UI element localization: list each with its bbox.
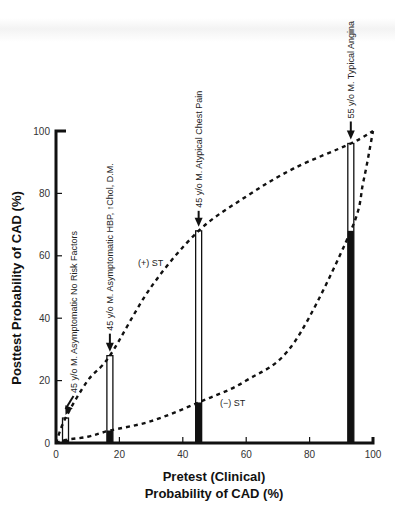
x-tick-label: 0 xyxy=(53,449,59,460)
bar-group xyxy=(348,143,354,443)
annotation-label: 45 y/o M. Asymptomatic HBP, ↑Chol, D.M. xyxy=(105,163,115,330)
negative-st-bar xyxy=(196,402,202,443)
negative-st-label: (−) ST xyxy=(220,398,246,408)
annotation-label: 55 y/o M. Typical Angina xyxy=(346,21,356,118)
y-tick-label: 40 xyxy=(39,313,51,324)
bar-group xyxy=(196,231,202,443)
y-axis-title: Posttest Probability of CAD (%) xyxy=(9,191,24,385)
annotation-label: 45 y/o M. Atypical Chest Pain xyxy=(194,91,204,208)
arrow-down-icon xyxy=(106,343,114,352)
x-axis-title-line1: Pretest (Clinical) xyxy=(163,469,266,484)
y-tick-label: 0 xyxy=(44,438,50,449)
y-tick-label: 20 xyxy=(39,375,51,386)
x-tick-label: 20 xyxy=(114,449,126,460)
annotation-2: 45 y/o M. Asymptomatic HBP, ↑Chol, D.M. xyxy=(105,163,115,351)
x-tick-label: 60 xyxy=(241,449,253,460)
negative-st-curve xyxy=(56,131,373,443)
curves xyxy=(56,131,373,443)
annotation-label: 45 y/o M. Asymptomatic No Risk Factors xyxy=(69,230,79,393)
bayes-posttest-chart: 020406080100020406080100 45 y/o M. Asymp… xyxy=(0,0,395,507)
positive-st-curve xyxy=(56,131,373,443)
y-tick-label: 100 xyxy=(33,126,50,137)
positive-st-label: (+) ST xyxy=(138,258,164,268)
x-tick-label: 40 xyxy=(177,449,189,460)
annotation-4: 55 y/o M. Typical Angina xyxy=(346,21,356,139)
y-tick-label: 80 xyxy=(39,188,51,199)
ticks: 020406080100020406080100 xyxy=(33,126,381,461)
x-tick-label: 100 xyxy=(365,449,382,460)
annotation-3: 45 y/o M. Atypical Chest Pain xyxy=(194,91,204,227)
negative-st-bar xyxy=(348,231,354,443)
x-axis-title-line2: Probability of CAD (%) xyxy=(145,486,284,501)
x-tick-label: 80 xyxy=(304,449,316,460)
arrow-down-icon xyxy=(347,130,355,139)
y-tick-label: 60 xyxy=(39,250,51,261)
negative-st-bar xyxy=(107,431,113,443)
arrow-down-icon xyxy=(195,218,203,227)
annotation-1: 45 y/o M. Asymptomatic No Risk Factors xyxy=(65,230,78,415)
axis-frame xyxy=(56,131,373,443)
axes xyxy=(56,131,373,443)
